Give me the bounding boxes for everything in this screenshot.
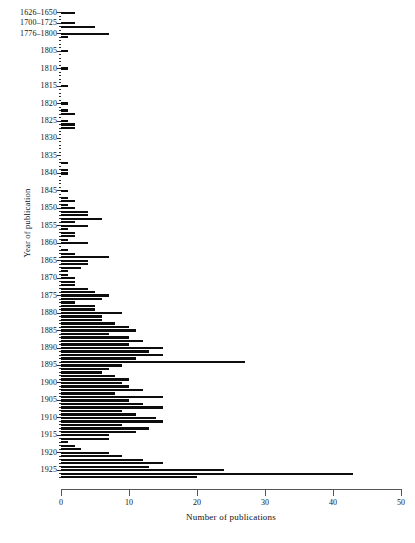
y-axis-tick bbox=[59, 19, 62, 20]
y-axis-tick-label: 1840 bbox=[41, 168, 57, 177]
bar bbox=[61, 36, 68, 38]
y-axis-tick bbox=[59, 100, 62, 101]
y-axis-tick bbox=[59, 148, 62, 149]
y-axis-tick bbox=[59, 194, 62, 195]
bar bbox=[61, 67, 68, 69]
bar bbox=[61, 12, 75, 14]
y-axis-tick bbox=[59, 107, 62, 108]
bar bbox=[61, 473, 353, 475]
x-axis-tick bbox=[129, 489, 130, 496]
bar bbox=[61, 399, 129, 401]
bar bbox=[61, 232, 75, 234]
bar bbox=[61, 385, 129, 387]
publications-histogram-figure: Year of publication 1626–16501700–172517… bbox=[0, 0, 415, 543]
bar bbox=[61, 340, 143, 342]
bar bbox=[61, 417, 156, 419]
bar bbox=[61, 123, 75, 125]
y-axis-tick bbox=[59, 152, 62, 153]
y-axis-tick-label: 1860 bbox=[41, 238, 57, 247]
x-axis-tick-label: 0 bbox=[59, 498, 63, 507]
y-axis-tick bbox=[59, 141, 62, 142]
bar bbox=[61, 301, 75, 303]
y-axis-tick bbox=[59, 176, 62, 177]
x-axis-tick-label: 50 bbox=[397, 498, 405, 507]
y-axis-tick-label: 1905 bbox=[41, 395, 57, 404]
bar bbox=[61, 476, 197, 478]
bar bbox=[61, 291, 95, 293]
y-axis-tick-label: 1885 bbox=[41, 326, 57, 335]
y-axis-tick bbox=[59, 61, 62, 62]
y-axis-tick-label: 1825 bbox=[41, 116, 57, 125]
bar bbox=[61, 274, 68, 276]
bar bbox=[61, 120, 68, 122]
y-axis-tick bbox=[59, 79, 62, 80]
y-axis-tick-label: 1815 bbox=[41, 81, 57, 90]
y-axis-tick-label: 1776–1800 bbox=[20, 29, 57, 38]
bar bbox=[61, 448, 81, 450]
bar bbox=[61, 109, 68, 111]
bar bbox=[61, 396, 163, 398]
y-axis-tick bbox=[59, 134, 62, 135]
bar bbox=[61, 305, 95, 307]
x-axis-tick bbox=[401, 489, 402, 496]
y-axis-tick bbox=[59, 166, 62, 167]
bar bbox=[61, 85, 68, 87]
bar bbox=[61, 190, 68, 192]
bar bbox=[61, 221, 75, 223]
bar bbox=[61, 322, 115, 324]
y-axis-tick bbox=[59, 93, 62, 94]
y-axis-tick bbox=[59, 47, 62, 48]
y-axis-tick bbox=[59, 54, 62, 55]
bar bbox=[61, 434, 109, 436]
bar bbox=[61, 225, 88, 227]
bar bbox=[61, 197, 68, 199]
y-axis-tick-label: 1700–1725 bbox=[20, 18, 57, 27]
bar bbox=[61, 410, 122, 412]
bar bbox=[61, 277, 75, 279]
x-axis-tick-label: 30 bbox=[261, 498, 269, 507]
bar bbox=[61, 333, 109, 335]
x-axis-line bbox=[61, 489, 401, 490]
bar bbox=[61, 368, 109, 370]
y-axis-tick-label: 1880 bbox=[41, 308, 57, 317]
x-axis-tick bbox=[265, 489, 266, 496]
bar bbox=[61, 308, 95, 310]
y-axis-tick-label: 1925 bbox=[41, 465, 57, 474]
bar bbox=[61, 441, 68, 443]
bar bbox=[61, 218, 102, 220]
y-axis-tick bbox=[59, 58, 62, 59]
bar bbox=[61, 294, 109, 296]
y-axis-tick-label: 1920 bbox=[41, 448, 57, 457]
bar bbox=[61, 424, 122, 426]
bar bbox=[61, 350, 149, 352]
y-axis-tick bbox=[59, 65, 62, 66]
y-axis-tick bbox=[59, 30, 62, 31]
bar bbox=[61, 459, 143, 461]
bar bbox=[61, 452, 109, 454]
y-axis-tick bbox=[59, 246, 62, 247]
bar bbox=[61, 403, 143, 405]
y-axis-tick bbox=[59, 89, 62, 90]
bar bbox=[61, 382, 122, 384]
bar bbox=[61, 455, 122, 457]
bar bbox=[61, 162, 68, 164]
y-axis-tick bbox=[59, 187, 62, 188]
bar bbox=[61, 371, 102, 373]
bar bbox=[61, 347, 163, 349]
bar bbox=[61, 242, 88, 244]
bar bbox=[61, 211, 88, 213]
bar bbox=[61, 284, 75, 286]
bar bbox=[61, 204, 68, 206]
bar bbox=[61, 462, 163, 464]
bar bbox=[61, 364, 122, 366]
bar bbox=[61, 389, 143, 391]
y-axis-tick-label: 1820 bbox=[41, 99, 57, 108]
bar bbox=[61, 469, 224, 471]
bar bbox=[61, 375, 115, 377]
y-axis-tick-label: 1810 bbox=[41, 64, 57, 73]
y-axis-tick bbox=[59, 82, 62, 83]
x-axis-tick bbox=[61, 489, 62, 496]
bar bbox=[61, 361, 245, 363]
x-axis-tick-label: 20 bbox=[193, 498, 201, 507]
bar bbox=[61, 127, 75, 129]
